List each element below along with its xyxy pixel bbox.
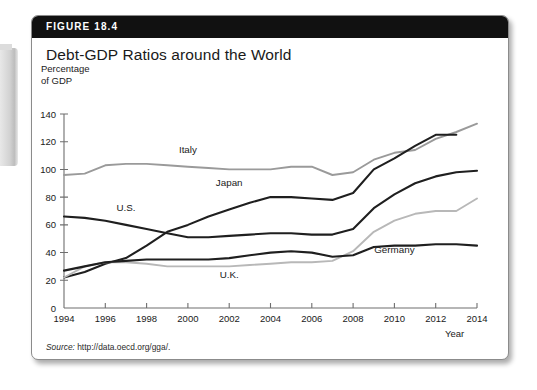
chart-plot-area: 020406080100120140 199419961998200020022… [32, 16, 508, 359]
series-label-uk: U.K. [220, 269, 239, 280]
x-tick-label: 1994 [53, 313, 74, 324]
x-axis-title: Year [445, 328, 464, 339]
x-axis-ticks: 1994199619982000200220042006200820102012… [53, 303, 487, 324]
y-tick-label: 80 [45, 192, 56, 203]
x-tick-label: 2008 [343, 313, 364, 324]
y-tick-label: 60 [45, 219, 56, 230]
series-line-italy [64, 124, 477, 175]
y-tick-label: 40 [45, 247, 56, 258]
x-tick-label: 2002 [219, 313, 240, 324]
x-tick-label: 2006 [301, 313, 322, 324]
x-tick-label: 2004 [260, 313, 281, 324]
x-tick-label: 2014 [466, 313, 487, 324]
data-series-group [64, 124, 477, 278]
y-tick-label: 120 [40, 136, 56, 147]
source-label: Source: [46, 342, 75, 352]
x-tick-label: 2010 [384, 313, 405, 324]
x-tick-label: 1998 [136, 313, 157, 324]
x-tick-label: 2012 [425, 313, 446, 324]
series-label-italy: Italy [179, 144, 197, 155]
y-tick-label: 0 [51, 303, 56, 314]
series-label-japan: Japan [216, 177, 243, 188]
page-edge-artifact-top [0, 44, 12, 50]
page-edge-artifact [0, 48, 18, 166]
source-note: Source: http://data.oecd.org/gga/. [46, 342, 170, 352]
y-tick-label: 140 [40, 109, 56, 120]
y-tick-label: 20 [45, 275, 56, 286]
y-tick-label: 100 [40, 164, 56, 175]
series-label-germany: Germany [374, 244, 414, 255]
x-tick-label: 2000 [177, 313, 198, 324]
figure-card: FIGURE 18.4 Debt-GDP Ratios around the W… [31, 15, 509, 360]
series-label-us: U.S. [116, 202, 135, 213]
line-chart-svg: 020406080100120140 199419961998200020022… [32, 16, 508, 359]
source-url: http://data.oecd.org/gga/. [77, 342, 170, 352]
x-tick-label: 1996 [95, 313, 116, 324]
